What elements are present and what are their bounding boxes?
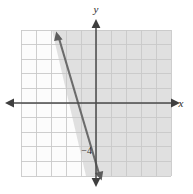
y-tick-label-minus-4: −4: [81, 145, 92, 156]
coordinate-plane-figure: x y −4: [0, 0, 193, 194]
graph-svg: x y −4: [0, 0, 193, 194]
y-axis-label: y: [93, 3, 99, 15]
x-axis-label: x: [178, 97, 184, 109]
